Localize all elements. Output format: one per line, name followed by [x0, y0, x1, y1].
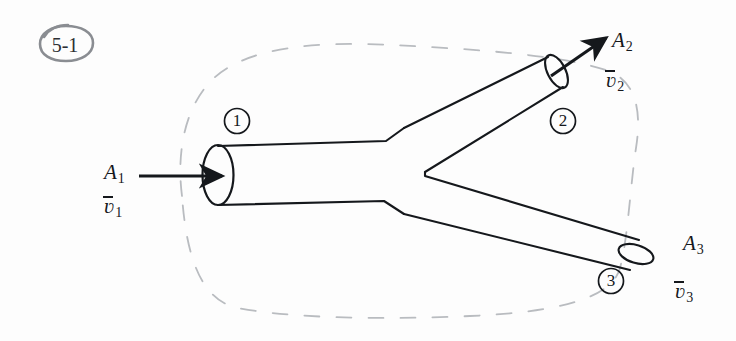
area-subscript-2: 2	[625, 39, 633, 54]
velocity-symbol-3-wrap: ʋ	[675, 281, 685, 302]
area-subscript-3: 3	[696, 242, 704, 257]
station-number-1: 1	[227, 111, 247, 131]
velocity-label-3: ʋ3	[675, 281, 693, 305]
figure-canvas: 5-1 1 2 3 A1 ʋ1 A2 ʋ2 A3 ʋ3	[0, 0, 736, 341]
overbar-1	[103, 196, 113, 198]
velocity-symbol-2-wrap: ʋ	[606, 70, 616, 91]
station-number-2: 2	[553, 111, 573, 131]
control-volume-boundary	[180, 44, 638, 318]
area-label-1: A1	[104, 162, 125, 186]
problem-number-text: 5-1	[32, 34, 98, 57]
area-symbol-3: A	[683, 231, 696, 255]
velocity-label-2: ʋ2	[606, 70, 624, 94]
area-label-3: A3	[683, 233, 704, 257]
outlet-3-face-ellipse	[616, 240, 656, 268]
branch-pipe-3	[404, 176, 639, 270]
area-symbol-1: A	[104, 160, 117, 184]
velocity-subscript-3: 3	[685, 290, 693, 305]
problem-number-tag: 5-1	[32, 27, 98, 63]
area-symbol-2: A	[612, 28, 625, 52]
inlet-pipe-1	[218, 128, 404, 214]
velocity-symbol-1-wrap: ʋ	[104, 196, 114, 217]
overbar-3	[674, 281, 684, 283]
station-number-3: 3	[601, 271, 621, 291]
outlet-flow-arrow-2	[551, 38, 606, 76]
velocity-subscript-2: 2	[616, 79, 624, 94]
velocity-subscript-1: 1	[114, 205, 122, 220]
area-subscript-1: 1	[117, 171, 125, 186]
branch-pipe-2	[404, 57, 563, 172]
velocity-label-1: ʋ1	[104, 196, 122, 220]
area-label-2: A2	[612, 30, 633, 54]
overbar-2	[605, 70, 615, 72]
